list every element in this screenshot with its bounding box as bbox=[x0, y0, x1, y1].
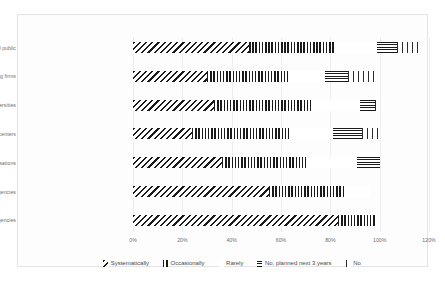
legend-item[interactable]: Occasionally bbox=[163, 260, 205, 267]
bar-segment bbox=[269, 186, 345, 197]
legend-swatch-icon bbox=[219, 260, 224, 267]
bar-row bbox=[133, 100, 380, 111]
x-tick-label: 20% bbox=[177, 237, 187, 243]
legend-item[interactable]: No bbox=[346, 260, 361, 267]
bar-row bbox=[133, 186, 370, 197]
legend-swatch-icon bbox=[257, 260, 262, 267]
bar-segment bbox=[291, 128, 333, 139]
y-axis-label: Think tanks/research centers bbox=[0, 128, 16, 139]
x-tick-label: 40% bbox=[226, 237, 236, 243]
y-axis-label: Federal ministries or agencies bbox=[0, 186, 16, 197]
x-tick-label: 0% bbox=[129, 237, 137, 243]
bar-row bbox=[133, 128, 380, 139]
y-axis-label-text: Int. organisations bbox=[0, 160, 16, 166]
bar-segment bbox=[222, 157, 306, 168]
bar-segment bbox=[335, 42, 377, 53]
bar-segment bbox=[362, 128, 379, 139]
bar-segment bbox=[207, 71, 288, 82]
bar-segment bbox=[397, 42, 422, 53]
bar-segment bbox=[133, 157, 222, 168]
bar-row bbox=[133, 157, 380, 168]
bar-segment bbox=[311, 100, 360, 111]
x-tick-label: 80% bbox=[325, 237, 335, 243]
legend-label: Rarely bbox=[226, 260, 243, 266]
bar-segment bbox=[133, 186, 269, 197]
y-axis-label-text: Consulting firms bbox=[0, 73, 16, 79]
bar-segment bbox=[249, 42, 335, 53]
legend-label: Systematically bbox=[111, 260, 149, 266]
legend-label: No bbox=[353, 260, 361, 266]
bar-row bbox=[133, 71, 375, 82]
y-axis-label: Consulting firms bbox=[0, 71, 16, 82]
legend-label: Occasionally bbox=[171, 260, 205, 266]
bar-row bbox=[133, 42, 422, 53]
y-axis-label: Int. organisations bbox=[0, 157, 16, 168]
gridline-100pct bbox=[380, 37, 381, 232]
legend-item[interactable]: Rarely bbox=[219, 260, 244, 267]
bar-segment bbox=[345, 186, 370, 197]
legend-swatch-icon bbox=[346, 260, 351, 267]
bar-segment bbox=[133, 100, 214, 111]
bar-segment bbox=[360, 100, 375, 111]
x-axis-tick-labels: 0%20%40%60%80%100%120% bbox=[133, 237, 429, 249]
y-axis-label-text: General public bbox=[0, 45, 16, 51]
bar-segment bbox=[325, 71, 347, 82]
y-axis-label-text: Federal ministries or agencies bbox=[0, 189, 16, 195]
bar-segment bbox=[306, 157, 358, 168]
legend-item[interactable]: Systematically bbox=[103, 260, 149, 267]
y-axis-label-text: Think tanks/research centers bbox=[0, 131, 16, 137]
y-axis-label: General public bbox=[0, 42, 16, 53]
chart-legend: SystematicallyOccasionallyRarelyNo, plan… bbox=[42, 255, 422, 271]
bar-segment bbox=[133, 128, 192, 139]
y-axis-category-labels: General publicConsulting firmsUniversiti… bbox=[0, 37, 16, 232]
bar-segment bbox=[192, 128, 291, 139]
bar-segment bbox=[375, 100, 380, 111]
legend-swatch-icon bbox=[103, 260, 108, 267]
gridline-120pct bbox=[429, 37, 430, 232]
bar-segment bbox=[375, 215, 380, 226]
plot-area bbox=[133, 37, 429, 232]
y-axis-label: Universities bbox=[0, 100, 16, 111]
bar-segment bbox=[333, 128, 363, 139]
legend-label: No, planned next 3 years bbox=[265, 260, 332, 266]
bar-segment bbox=[338, 215, 375, 226]
x-tick-label: 60% bbox=[276, 237, 286, 243]
bar-segment bbox=[214, 100, 310, 111]
x-tick-label: 120% bbox=[422, 237, 435, 243]
bar-row bbox=[133, 215, 380, 226]
y-axis-label-text: Universities bbox=[0, 102, 16, 108]
chart-card: General publicConsulting firmsUniversiti… bbox=[17, 14, 428, 267]
x-tick-label: 100% bbox=[373, 237, 386, 243]
bar-segment bbox=[377, 42, 397, 53]
bar-segment bbox=[133, 42, 249, 53]
y-axis-label: Dubai govt agencies bbox=[0, 215, 16, 226]
bar-segment bbox=[133, 215, 338, 226]
bar-segment bbox=[133, 71, 207, 82]
legend-swatch-icon bbox=[163, 260, 168, 267]
bar-segment bbox=[348, 71, 375, 82]
bar-segment bbox=[288, 71, 325, 82]
bar-segment bbox=[357, 157, 379, 168]
y-axis-label-text: Dubai govt agencies bbox=[0, 217, 16, 223]
legend-item[interactable]: No, planned next 3 years bbox=[257, 260, 331, 267]
